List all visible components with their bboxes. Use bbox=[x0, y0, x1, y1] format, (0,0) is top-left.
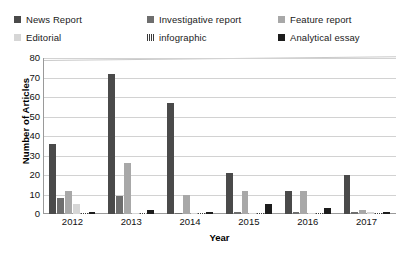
legend-label-analytical-essay: Analytical essay bbox=[290, 32, 360, 43]
y-axis-ticks: 01020304050607080 bbox=[14, 58, 40, 214]
bar bbox=[116, 196, 123, 214]
bar bbox=[206, 212, 213, 214]
legend-item-analytical-essay: Analytical essay bbox=[278, 28, 398, 46]
y-tick-label: 20 bbox=[14, 170, 40, 180]
bar-group-bars bbox=[344, 58, 390, 214]
bar bbox=[300, 191, 307, 214]
y-tick-label: 40 bbox=[14, 131, 40, 141]
x-tick-label: 2014 bbox=[161, 216, 220, 232]
bar bbox=[81, 213, 88, 214]
legend-swatch-editorial bbox=[14, 34, 21, 41]
bar bbox=[191, 213, 198, 214]
bar bbox=[226, 173, 233, 214]
bar bbox=[367, 212, 374, 214]
bar bbox=[324, 208, 331, 214]
legend-swatch-news-report bbox=[14, 16, 21, 23]
bar-group bbox=[278, 58, 337, 214]
legend-label-news-report: News Report bbox=[26, 14, 82, 25]
bar bbox=[132, 213, 139, 214]
bar-chart: Number of Articles 01020304050607080 201… bbox=[0, 52, 408, 264]
bar bbox=[140, 213, 147, 214]
bar bbox=[293, 212, 300, 214]
legend-swatch-investigative-report bbox=[147, 16, 154, 23]
bar-group-bars bbox=[167, 58, 213, 214]
bar bbox=[65, 191, 72, 214]
bar bbox=[257, 213, 264, 214]
x-tick-label: 2016 bbox=[278, 216, 337, 232]
x-tick-label: 2017 bbox=[337, 216, 396, 232]
x-axis-label: Year bbox=[43, 232, 396, 243]
bar bbox=[285, 191, 292, 214]
legend-item-news-report: News Report bbox=[14, 10, 147, 28]
bar bbox=[375, 213, 382, 214]
legend-item-infographic: infographic bbox=[147, 28, 278, 46]
y-tick-label: 60 bbox=[14, 92, 40, 102]
x-axis-ticks: 201220132014201520162017 bbox=[43, 216, 396, 232]
bar bbox=[351, 212, 358, 214]
bar bbox=[183, 195, 190, 215]
bar-group-bars bbox=[285, 58, 331, 214]
bar bbox=[359, 210, 366, 214]
x-tick-label: 2015 bbox=[219, 216, 278, 232]
bar-group-bars bbox=[49, 58, 95, 214]
legend-item-investigative-report: Investigative report bbox=[147, 10, 278, 28]
bar bbox=[57, 198, 64, 214]
bar-group bbox=[161, 58, 220, 214]
legend-swatch-infographic bbox=[147, 34, 154, 41]
legend-row: News Report Investigative report Feature… bbox=[14, 10, 400, 28]
legend-swatch-analytical-essay bbox=[278, 34, 285, 41]
bar bbox=[124, 163, 131, 214]
legend-label-investigative-report: Investigative report bbox=[159, 14, 241, 25]
bar-group bbox=[102, 58, 161, 214]
y-tick-label: 30 bbox=[14, 151, 40, 161]
bar bbox=[308, 213, 315, 214]
bar bbox=[249, 213, 256, 214]
bar bbox=[344, 175, 351, 214]
bar bbox=[242, 191, 249, 214]
bar bbox=[175, 213, 182, 214]
legend-item-feature-report: Feature report bbox=[278, 10, 398, 28]
bar bbox=[108, 74, 115, 214]
bar-group-bars bbox=[108, 58, 154, 214]
bar bbox=[89, 212, 96, 214]
bar-group bbox=[219, 58, 278, 214]
y-tick-label: 70 bbox=[14, 73, 40, 83]
bar bbox=[316, 213, 323, 214]
y-tick-label: 0 bbox=[14, 209, 40, 219]
bar bbox=[73, 204, 80, 214]
chart-legend: News Report Investigative report Feature… bbox=[14, 10, 400, 46]
x-tick-label: 2013 bbox=[102, 216, 161, 232]
bar-group-bars bbox=[226, 58, 272, 214]
bar bbox=[49, 144, 56, 214]
bar bbox=[383, 212, 390, 214]
x-tick-label: 2012 bbox=[43, 216, 102, 232]
legend-label-feature-report: Feature report bbox=[290, 14, 352, 25]
y-tick-label: 50 bbox=[14, 112, 40, 122]
legend-label-editorial: Editorial bbox=[26, 32, 61, 43]
bar-group bbox=[43, 58, 102, 214]
legend-item-editorial: Editorial bbox=[14, 28, 147, 46]
y-tick-label: 80 bbox=[14, 53, 40, 63]
legend-swatch-feature-report bbox=[278, 16, 285, 23]
bar bbox=[198, 213, 205, 214]
y-tick-label: 10 bbox=[14, 190, 40, 200]
legend-row: Editorial infographic Analytical essay bbox=[14, 28, 400, 46]
bar-groups bbox=[43, 58, 396, 214]
bar bbox=[167, 103, 174, 214]
bar-group bbox=[337, 58, 396, 214]
bar bbox=[234, 212, 241, 214]
bar bbox=[147, 210, 154, 214]
bar bbox=[265, 204, 272, 214]
legend-label-infographic: infographic bbox=[159, 32, 207, 43]
